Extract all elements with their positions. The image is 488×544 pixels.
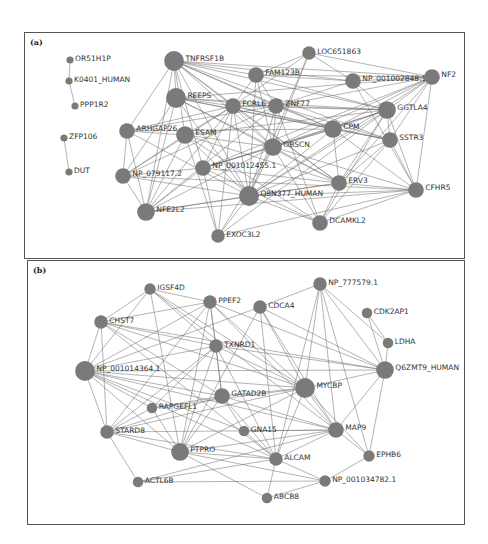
- node[interactable]: NP_777579.1: [313, 277, 378, 291]
- node-circle[interactable]: [119, 123, 135, 139]
- node-circle[interactable]: [319, 475, 330, 486]
- node-circle[interactable]: [195, 160, 211, 176]
- node-circle[interactable]: [345, 73, 361, 89]
- node[interactable]: ACTL6B: [133, 476, 174, 487]
- node-label: ZFP106: [69, 132, 98, 141]
- node-circle[interactable]: [262, 493, 273, 504]
- node-circle[interactable]: [214, 388, 230, 404]
- node-circle[interactable]: [171, 443, 189, 461]
- node-label: NP_777579.1: [328, 278, 378, 287]
- node-circle[interactable]: [66, 56, 73, 63]
- node-circle[interactable]: [376, 361, 394, 379]
- node-circle[interactable]: [239, 186, 259, 206]
- node-label: EPHB6: [376, 450, 401, 459]
- node-circle[interactable]: [269, 452, 283, 466]
- node[interactable]: ARHGAP26: [119, 123, 177, 139]
- node-circle[interactable]: [313, 277, 327, 291]
- node-circle[interactable]: [211, 229, 225, 243]
- node[interactable]: ZFP106: [60, 132, 97, 141]
- node[interactable]: NP_079117.2: [115, 168, 182, 184]
- node[interactable]: K0401_HUMAN: [65, 75, 130, 84]
- node[interactable]: OR51H1P: [66, 54, 111, 63]
- node[interactable]: PPP1R2: [71, 100, 108, 109]
- edge: [101, 322, 107, 432]
- node[interactable]: GNA15: [239, 425, 277, 436]
- node[interactable]: CFHR5: [408, 182, 451, 198]
- edge: [185, 135, 339, 183]
- node-label: NP_001012455.1: [212, 161, 276, 170]
- node[interactable]: IGSF4D: [144, 283, 185, 295]
- node-circle[interactable]: [362, 308, 373, 319]
- node-circle[interactable]: [144, 283, 155, 294]
- node-circle[interactable]: [312, 215, 328, 231]
- node-circle[interactable]: [253, 300, 267, 314]
- edge: [185, 135, 218, 236]
- node[interactable]: Q8N377_HUMAN: [239, 186, 323, 206]
- node-circle[interactable]: [378, 101, 396, 119]
- node[interactable]: EXOC3L2: [211, 229, 260, 243]
- node[interactable]: NP_001014364.1: [75, 361, 161, 381]
- node-circle[interactable]: [302, 46, 316, 60]
- node-circle[interactable]: [147, 403, 158, 414]
- node-circle[interactable]: [65, 77, 72, 84]
- node[interactable]: ESAM: [176, 126, 216, 144]
- node-label: PPEF2: [218, 296, 241, 305]
- node-circle[interactable]: [133, 477, 144, 488]
- node-circle[interactable]: [331, 175, 347, 191]
- node-label: CPM: [343, 122, 359, 131]
- node[interactable]: LDHA: [383, 337, 417, 348]
- node-circle[interactable]: [137, 203, 155, 221]
- node-circle[interactable]: [94, 315, 108, 329]
- node[interactable]: Q6ZMT9_HUMAN: [376, 361, 459, 379]
- node[interactable]: GGTLA4: [378, 101, 428, 119]
- node-circle[interactable]: [225, 98, 241, 114]
- node-circle[interactable]: [248, 67, 264, 83]
- node-circle[interactable]: [164, 51, 184, 71]
- node-circle[interactable]: [60, 134, 67, 141]
- node-label: DCAMKL2: [329, 216, 366, 225]
- node-label: RAPGEFL1: [159, 402, 198, 411]
- node[interactable]: PTPRO: [171, 443, 215, 461]
- node-circle[interactable]: [424, 69, 440, 85]
- node-circle[interactable]: [115, 168, 131, 184]
- node-circle[interactable]: [176, 126, 194, 144]
- node-circle[interactable]: [363, 450, 374, 461]
- edge: [367, 313, 388, 343]
- node[interactable]: SSTR3: [382, 132, 423, 148]
- node-label: ACTL6B: [145, 476, 174, 485]
- node-circle[interactable]: [295, 378, 315, 398]
- node-circle[interactable]: [324, 120, 342, 138]
- node[interactable]: DUT: [65, 166, 90, 175]
- node-circle[interactable]: [382, 132, 398, 148]
- node[interactable]: DCAMKL2: [312, 215, 366, 231]
- node-circle[interactable]: [71, 102, 78, 109]
- node-circle[interactable]: [268, 98, 284, 114]
- node-circle[interactable]: [209, 339, 223, 353]
- node[interactable]: ERV3: [331, 175, 368, 191]
- node-label: ERV3: [348, 176, 368, 185]
- node[interactable]: MAP9: [328, 422, 366, 438]
- node[interactable]: NFE2L2: [137, 203, 185, 221]
- node-circle[interactable]: [239, 426, 250, 437]
- node-circle[interactable]: [408, 182, 424, 198]
- edge: [276, 459, 325, 481]
- node-circle[interactable]: [75, 361, 95, 381]
- node[interactable]: CDCA4: [253, 300, 294, 314]
- node-circle[interactable]: [166, 88, 186, 108]
- node-circle[interactable]: [65, 168, 72, 175]
- node[interactable]: EPHB6: [363, 450, 401, 462]
- edge: [69, 81, 75, 106]
- node[interactable]: MYCBP: [295, 378, 342, 398]
- node-circle[interactable]: [264, 138, 282, 156]
- node-circle[interactable]: [328, 422, 344, 438]
- node-circle[interactable]: [203, 295, 217, 309]
- node[interactable]: ALCAM: [269, 452, 310, 466]
- node[interactable]: CDK2AP1: [362, 307, 409, 318]
- node[interactable]: NP_001012455.1: [195, 160, 276, 176]
- node[interactable]: NF2: [424, 69, 456, 85]
- node[interactable]: ABCB8: [262, 492, 300, 503]
- node-circle[interactable]: [383, 338, 394, 349]
- node-circle[interactable]: [100, 425, 114, 439]
- node[interactable]: NP_001034782.1: [319, 475, 396, 487]
- node[interactable]: FAM123B: [248, 67, 300, 83]
